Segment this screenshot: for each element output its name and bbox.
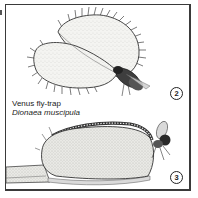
trap-lobe-closed: [42, 127, 154, 179]
scientific-name: Dionaea muscipula: [12, 108, 80, 117]
common-name: Venus fly-trap: [12, 99, 80, 108]
venus-flytrap-closed-icon: [6, 120, 171, 185]
leaf-petiole: [6, 165, 50, 183]
figure-caption: Venus fly-trap Dionaea muscipula: [12, 99, 80, 117]
panel-label-2: 2: [170, 87, 183, 100]
venus-flytrap-open-icon: [27, 7, 150, 96]
fly-caught-icon: [152, 120, 171, 160]
panel-label-3: 3: [170, 171, 183, 184]
